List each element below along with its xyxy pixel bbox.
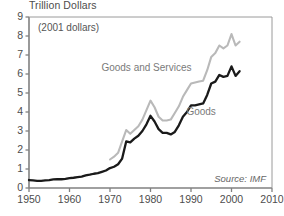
series-label-goods-and-services: Goods and Services <box>101 62 191 73</box>
x-tick-label: 1990 <box>179 193 203 205</box>
x-tick-label: 1950 <box>17 193 41 205</box>
x-tick-label: 1970 <box>98 193 122 205</box>
source-label: Source: IMF <box>214 173 267 184</box>
y-tick-label: 5 <box>17 86 23 98</box>
y-tick-label: 1 <box>17 162 23 174</box>
line-chart: 0123456789 1950196019701980199020002010 … <box>0 0 284 216</box>
y-tick-label: 9 <box>17 10 23 22</box>
y-tick-label: 8 <box>17 29 23 41</box>
series-line-goods-and-services <box>110 34 240 159</box>
series-line-goods <box>29 66 240 180</box>
y-axis-ticks: 0123456789 <box>17 10 29 193</box>
x-tick-label: 2000 <box>220 193 244 205</box>
x-axis-ticks: 1950196019701980199020002010 <box>17 188 284 205</box>
x-tick-label: 2010 <box>260 193 284 205</box>
y-tick-label: 3 <box>17 124 23 136</box>
y-tick-label: 7 <box>17 48 23 60</box>
chart-page: Trillion Dollars (2001 dollars) 01234567… <box>0 0 284 216</box>
y-tick-label: 4 <box>17 105 23 117</box>
y-tick-label: 6 <box>17 67 23 79</box>
series-labels: Goods and ServicesGoods <box>101 62 215 117</box>
y-tick-label: 0 <box>17 181 23 193</box>
x-tick-label: 1960 <box>58 193 82 205</box>
x-tick-label: 1980 <box>139 193 163 205</box>
series-label-goods: Goods <box>186 106 215 117</box>
y-tick-label: 2 <box>17 143 23 155</box>
